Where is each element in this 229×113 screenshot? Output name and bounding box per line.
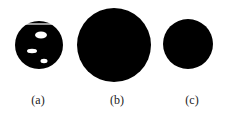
panel-a: [15, 21, 63, 69]
panel-label-c: (c): [185, 94, 198, 106]
panel-label-a: (a): [31, 94, 44, 106]
black-disk-large: [77, 8, 151, 82]
white-hole: [27, 49, 37, 53]
panel-label-b: (b): [110, 94, 124, 106]
white-hole: [35, 32, 47, 39]
panel-c: [163, 19, 213, 69]
black-disk-with-holes: [15, 21, 63, 69]
panel-b: [77, 8, 151, 82]
white-hole: [41, 59, 48, 63]
black-disk-medium: [163, 19, 213, 69]
